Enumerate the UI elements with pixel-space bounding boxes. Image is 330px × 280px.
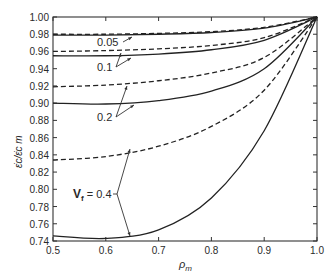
y-tick-label: 0.80	[30, 184, 50, 195]
label-vf-01: 0.1	[97, 61, 112, 73]
label-vf-04: Vf = 0.4	[73, 187, 112, 203]
label-vf-02: 0.2	[97, 111, 112, 123]
y-tick-label: 0.76	[30, 219, 50, 230]
y-tick-label: 0.78	[30, 202, 50, 213]
series-vf-0-4-solid	[53, 17, 317, 239]
y-tick-label: 0.90	[30, 98, 50, 109]
plot-frame	[53, 17, 317, 241]
series-vf-0-2-solid	[53, 17, 317, 104]
x-axis-label: ρm	[178, 258, 192, 273]
x-tick-label: 0.5	[46, 245, 60, 256]
series-vf-0-1-dashed	[53, 17, 317, 51]
arrowhead-icon	[124, 86, 127, 90]
annotation-arrows	[113, 37, 134, 236]
label-vf-005: 0.05	[97, 36, 118, 48]
y-tick-label: 0.86	[30, 133, 50, 144]
x-tick-label: 0.7	[152, 245, 166, 256]
arrowhead-icon	[127, 232, 130, 236]
y-tick-label: 0.94	[30, 64, 50, 75]
y-axis-label: ε̇c/ε̇c m	[13, 135, 24, 168]
y-tick-label: 0.88	[30, 115, 50, 126]
label-vf-04-value: = 0.4	[84, 188, 112, 200]
arrow-line	[117, 149, 130, 194]
x-tick-label: 0.6	[99, 245, 113, 256]
y-tick-label: 0.82	[30, 167, 50, 178]
arrowhead-icon	[130, 105, 134, 108]
x-tick-label: 1.0	[310, 245, 324, 256]
arrow-line	[116, 86, 127, 117]
x-tick-label: 0.9	[257, 245, 271, 256]
y-tick-label: 0.98	[30, 29, 50, 40]
label-vf-04-prefix: V	[73, 187, 81, 201]
chart: 0.740.760.780.800.820.840.860.880.900.92…	[0, 0, 330, 280]
arrow-line	[117, 194, 130, 236]
plot-series	[53, 17, 317, 239]
y-tick-label: 0.92	[30, 81, 50, 92]
x-tick-label: 0.8	[204, 245, 218, 256]
series-vf-0-1-solid	[53, 17, 317, 56]
arrowhead-icon	[127, 149, 130, 153]
series-vf-0-4-dashed	[53, 17, 317, 160]
y-tick-label: 0.84	[30, 150, 50, 161]
y-tick-label: 1.00	[30, 12, 50, 23]
x-axis-label-main: ρ	[178, 258, 185, 270]
y-tick-label: 0.96	[30, 46, 50, 57]
x-axis-label-sub: m	[185, 264, 192, 273]
